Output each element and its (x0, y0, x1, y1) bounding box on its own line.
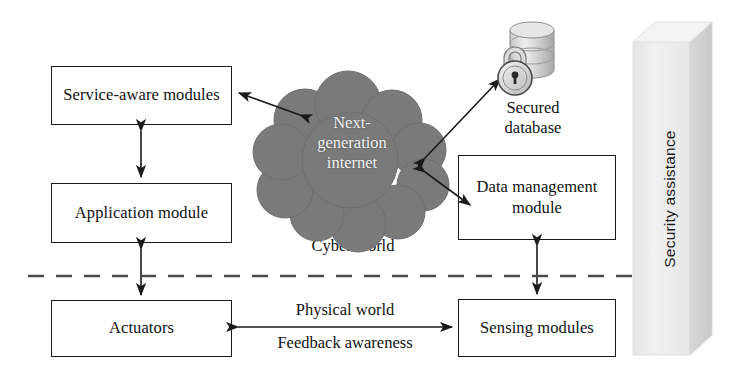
secured-database-label: Secured database (478, 98, 588, 138)
secured-database-icon (0, 0, 738, 379)
diagram-canvas: Security assistance Next- generation int… (0, 0, 738, 379)
